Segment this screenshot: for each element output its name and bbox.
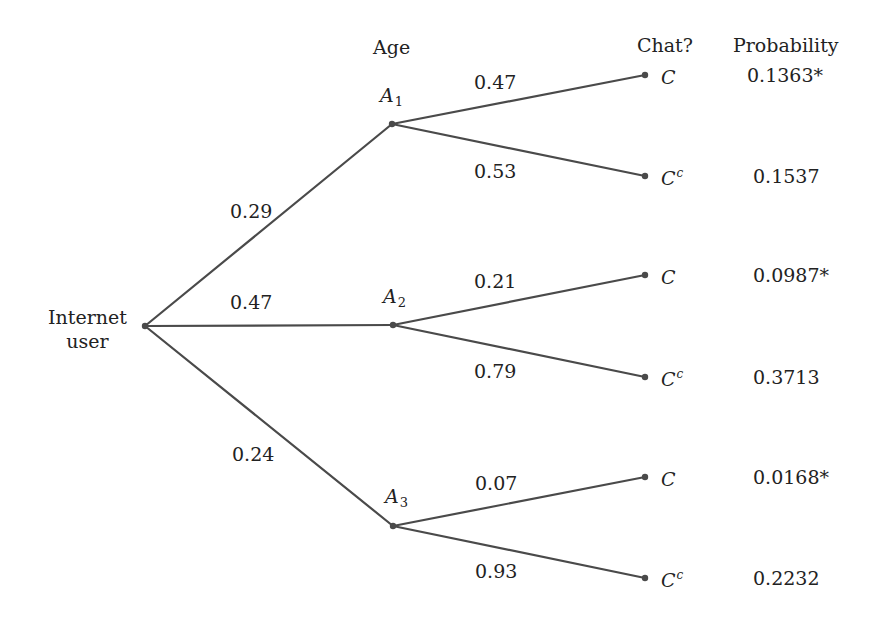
branch-a1-cc [392,124,645,176]
leaf-node-3 [642,272,648,278]
leaf-6-letter: C [661,569,676,591]
branch-root-a3 [145,326,393,526]
leaf-4-sup: c [677,367,684,381]
leaf-label-2: Cc [661,167,683,188]
prob-a3-cc: 0.93 [475,562,517,581]
leaf-node-6 [642,575,648,581]
branch-a2-c [393,275,645,325]
joint-prob-1: 0.1363* [747,66,823,85]
leaf-3-letter: C [661,266,676,288]
prob-root-a1: 0.29 [230,202,272,221]
leaf-2-sup: c [677,166,684,180]
age-node-a2-sub: 2 [398,295,406,310]
joint-prob-5: 0.0168* [753,468,829,487]
leaf-node-5 [642,474,648,480]
branch-a3-cc [393,526,645,578]
leaf-label-6: Cc [661,569,683,590]
root-label-line2: user [40,329,135,353]
prob-a1-cc: 0.53 [474,162,516,181]
branch-a2-cc [393,325,645,377]
leaf-4-letter: C [661,368,676,390]
leaf-2-letter: C [661,167,676,189]
prob-a2-c: 0.21 [474,272,516,291]
leaf-label-5: C [661,468,677,489]
root-label-line1: Internet [40,305,135,329]
branch-a3-c [393,477,645,526]
prob-root-a3: 0.24 [232,445,274,464]
age-node-a1-sub: 1 [395,94,403,109]
leaf-node-1 [642,72,648,78]
age-node-a2-label: A2 [383,287,406,309]
leaf-node-2 [642,173,648,179]
age-node-a1-letter: A [380,84,394,106]
age-node-a3-letter: A [385,485,399,507]
leaf-label-1: C [661,66,677,87]
age-node-a3-label: A3 [385,487,408,509]
header-age: Age [373,38,410,57]
leaf-1-letter: C [661,66,676,88]
header-chat: Chat? [637,36,693,55]
leaf-5-letter: C [661,468,676,490]
leaf-label-3: C [661,266,677,287]
root-label: Internet user [40,305,135,353]
prob-a3-c: 0.07 [475,474,517,493]
leaf-6-sup: c [677,568,684,582]
leaf-node-4 [642,374,648,380]
leaf-label-4: Cc [661,368,683,389]
joint-prob-2: 0.1537 [753,167,819,186]
branch-a1-c [392,75,645,124]
prob-a2-cc: 0.79 [474,362,516,381]
node-root [142,323,148,329]
prob-a1-c: 0.47 [474,73,516,92]
prob-root-a2: 0.47 [230,293,272,312]
node-a2 [390,322,396,328]
header-probability: Probability [733,36,839,55]
joint-prob-6: 0.2232 [753,569,819,588]
node-a1 [389,121,395,127]
node-a3 [390,523,396,529]
branch-root-a2 [145,325,393,326]
joint-prob-4: 0.3713 [753,368,819,387]
joint-prob-3: 0.0987* [753,266,829,285]
age-node-a2-letter: A [383,285,397,307]
age-node-a1-label: A1 [380,86,403,108]
age-node-a3-sub: 3 [400,495,408,510]
